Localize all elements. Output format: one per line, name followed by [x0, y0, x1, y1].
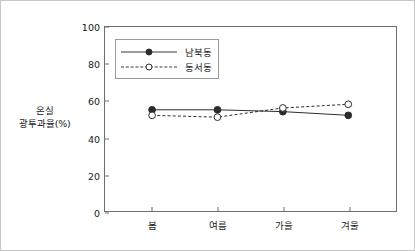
filled-circle-icon: [345, 112, 352, 119]
data-series-layer: [105, 27, 396, 211]
y-axis-tick-label: 20: [88, 170, 100, 181]
filled-circle-icon: [214, 106, 221, 113]
chart-figure: 온실 광투과율(%) 남북동 동서동 020406080100 봄여름가을겨울: [0, 0, 415, 251]
plot-area: 남북동 동서동 020406080100 봄여름가을겨울: [104, 26, 397, 212]
open-circle-icon: [214, 114, 221, 121]
y-axis-tick-mark: [105, 213, 109, 214]
open-circle-icon: [149, 112, 156, 119]
x-axis-tick-label: 겨울: [341, 218, 359, 232]
x-axis-tick-label: 가을: [275, 218, 293, 232]
y-axis-label-line-1: 온실: [9, 104, 81, 117]
open-circle-icon: [345, 101, 352, 108]
y-axis-tick-label: 60: [88, 96, 100, 107]
y-axis-tick-label: 80: [88, 59, 100, 70]
y-axis-label: 온실 광투과율(%): [9, 104, 81, 130]
y-axis-label-line-2: 광투과율(%): [9, 117, 81, 130]
y-axis-tick-label: 0: [94, 208, 100, 219]
x-axis-tick-label: 여름: [209, 218, 227, 232]
y-axis-tick-label: 40: [88, 133, 100, 144]
open-circle-icon: [279, 105, 286, 112]
x-axis-tick-label: 봄: [148, 218, 157, 232]
y-axis-tick-label: 100: [82, 22, 100, 33]
